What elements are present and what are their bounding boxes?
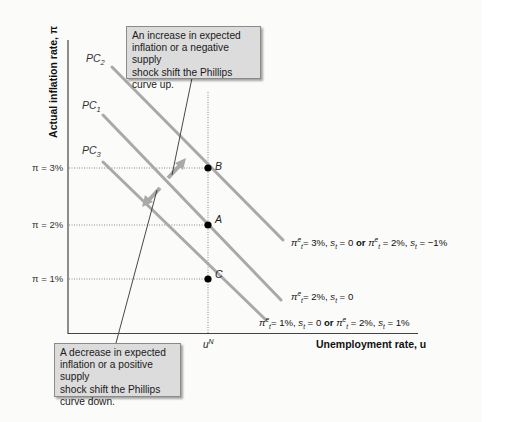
x-tick-natural-rate: uN <box>203 338 214 350</box>
point-a-label: A <box>215 213 222 225</box>
pc3-annotation: πet= 1%, st = 0 or πet = 2%, st = 1% <box>259 316 410 330</box>
point-b-label: B <box>215 160 222 172</box>
shift-down-arrow-icon <box>142 188 160 207</box>
phillips-curve-pc3 <box>103 162 266 320</box>
callout-down-pointer <box>116 190 157 343</box>
point-a <box>204 221 211 228</box>
y-tick-1pct: π = 1% <box>32 273 63 284</box>
label-pc3: PC3 <box>82 144 101 159</box>
x-axis-title: Unemployment rate, u <box>316 338 426 350</box>
phillips-curve-pc1 <box>103 115 281 300</box>
y-tick-3pct: π = 3% <box>32 162 63 173</box>
label-pc2: PC2 <box>86 52 105 67</box>
y-tick-2pct: π = 2% <box>32 219 63 230</box>
label-pc1: PC1 <box>82 99 101 114</box>
point-c-label: C <box>215 268 223 280</box>
shift-up-arrow-icon <box>168 158 186 178</box>
dotted-guides <box>69 92 208 333</box>
pc2-annotation: πet= 3%, st = 0 or πet = 2%, st = −1% <box>291 236 447 250</box>
callout-shift-down: A decrease in expected inflation or a po… <box>54 343 181 397</box>
pc1-annotation: πet= 2%, st = 0 <box>291 290 353 304</box>
callout-shift-up: An increase in expected inflation or a n… <box>126 26 261 79</box>
y-axis-title: Actual inflation rate, π <box>47 17 59 147</box>
point-c <box>204 275 211 282</box>
point-b <box>204 164 211 171</box>
